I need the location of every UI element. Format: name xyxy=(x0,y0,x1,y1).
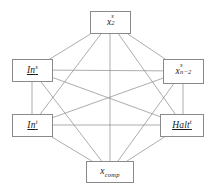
node-x2s-script-stack: ss2 xyxy=(111,18,114,28)
node-in-s[interactable]: Ins xyxy=(12,59,53,82)
node-in-s-label: Ins xyxy=(27,66,38,76)
node-x2s-label: xss2 xyxy=(107,18,114,28)
node-halt-t-base: Halt xyxy=(172,120,190,130)
graph-diagram: xss2 Ins xn−2sn−2 Int Haltt xcomp xyxy=(0,0,214,196)
node-halt-t[interactable]: Haltt xyxy=(160,114,204,137)
node-x2s[interactable]: xss2 xyxy=(90,11,131,34)
node-xcomp-label: xcomp xyxy=(100,167,119,177)
node-in-t-label: Int xyxy=(27,121,37,131)
node-in-s-superscript: s xyxy=(35,63,38,70)
node-xcomp[interactable]: xcomp xyxy=(86,161,134,183)
node-xcomp-subscript: comp xyxy=(105,171,120,178)
node-xn2s[interactable]: xn−2sn−2 xyxy=(163,59,204,84)
node-in-t-superscript: t xyxy=(36,118,38,125)
node-x2s-subscript: 2 xyxy=(111,20,114,27)
edge-in_s-halt_t xyxy=(53,78,161,117)
node-in-t-base: In xyxy=(27,120,35,130)
node-xn2s-label: xn−2sn−2 xyxy=(176,67,192,77)
node-halt-t-superscript: t xyxy=(190,118,192,125)
node-xn2s-subscript: n−2 xyxy=(180,69,192,76)
node-in-t[interactable]: Int xyxy=(12,114,53,137)
node-xn2s-script-stack: n−2sn−2 xyxy=(180,67,192,77)
node-halt-t-label: Haltt xyxy=(172,121,192,131)
edge-in_s-xn2s xyxy=(53,70,164,71)
edges-group xyxy=(32,34,183,161)
